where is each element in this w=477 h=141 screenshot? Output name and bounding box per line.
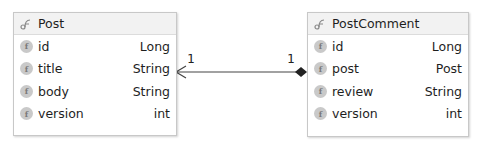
field-row[interactable]: f review String — [308, 80, 468, 103]
field-row[interactable]: f id Long — [14, 35, 176, 58]
field-icon: f — [314, 85, 327, 98]
composition-diamond — [295, 67, 307, 77]
target-multiplicity: 1 — [187, 51, 195, 66]
field-row[interactable]: f id Long — [308, 35, 468, 58]
field-type: String — [425, 84, 462, 99]
field-type: Long — [140, 39, 170, 54]
field-row[interactable]: f version int — [308, 103, 468, 126]
field-type: Post — [436, 61, 462, 76]
field-type: Long — [432, 39, 462, 54]
entity-post[interactable]: Post f id Long f title String f body Str… — [13, 12, 177, 136]
field-name: version — [38, 106, 154, 121]
field-icon: f — [20, 107, 33, 120]
field-row[interactable]: f post Post — [308, 58, 468, 81]
field-name: body — [38, 84, 133, 99]
field-name: review — [332, 84, 425, 99]
field-row[interactable]: f version int — [14, 103, 176, 126]
field-name: post — [332, 61, 436, 76]
field-icon: f — [314, 40, 327, 53]
field-type: String — [133, 84, 170, 99]
entity-header: Post — [14, 13, 176, 35]
entity-name: PostComment — [332, 16, 419, 31]
field-name: id — [38, 39, 140, 54]
field-type: int — [446, 106, 462, 121]
field-type: String — [133, 61, 170, 76]
class-icon — [314, 18, 326, 30]
field-type: int — [154, 106, 170, 121]
field-icon: f — [20, 40, 33, 53]
field-row[interactable]: f body String — [14, 80, 176, 103]
field-name: id — [332, 39, 432, 54]
field-icon: f — [20, 62, 33, 75]
field-icon: f — [314, 107, 327, 120]
class-icon — [20, 18, 32, 30]
field-icon: f — [314, 62, 327, 75]
field-icon: f — [20, 85, 33, 98]
entity-postcomment[interactable]: PostComment f id Long f post Post f revi… — [307, 12, 469, 137]
field-row[interactable]: f title String — [14, 58, 176, 81]
entity-header: PostComment — [308, 13, 468, 35]
field-name: version — [332, 106, 446, 121]
source-multiplicity: 1 — [287, 51, 295, 66]
entity-name: Post — [38, 16, 64, 31]
field-name: title — [38, 61, 133, 76]
